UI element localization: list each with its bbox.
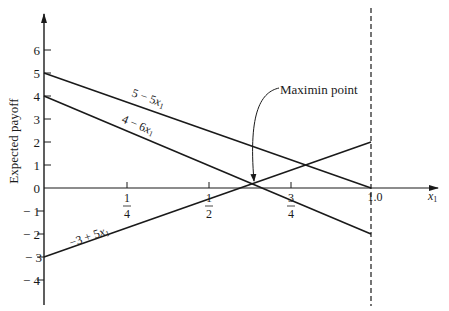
svg-text:3: 3 bbox=[34, 112, 41, 127]
y-axis-label: Expected payoff bbox=[6, 98, 21, 184]
svg-text:1.0: 1.0 bbox=[368, 190, 383, 204]
label-minus3-plus-5x1: −3 + 5x1 bbox=[67, 223, 111, 251]
y-tick-labels: 6 5 4 3 2 1 0 − 1 − 2 − 3 − 4 bbox=[23, 43, 42, 288]
svg-text:2: 2 bbox=[34, 135, 41, 150]
svg-text:5: 5 bbox=[34, 66, 41, 81]
svg-text:1: 1 bbox=[124, 191, 130, 205]
svg-text:4: 4 bbox=[288, 207, 294, 221]
svg-text:1: 1 bbox=[34, 158, 41, 173]
svg-text:− 4: − 4 bbox=[23, 273, 41, 288]
svg-text:6: 6 bbox=[34, 43, 41, 58]
svg-text:4: 4 bbox=[34, 89, 41, 104]
svg-text:0: 0 bbox=[34, 181, 41, 196]
x-axis-label: x1 bbox=[427, 189, 437, 204]
label-5-minus-5x1: 5 − 5x1 bbox=[130, 86, 167, 111]
svg-text:3: 3 bbox=[288, 191, 294, 205]
svg-text:− 2: − 2 bbox=[23, 227, 40, 242]
svg-text:2: 2 bbox=[206, 207, 212, 221]
payoff-chart: 6 5 4 3 2 1 0 − 1 − 2 − 3 − 4 1 4 1 2 3 … bbox=[0, 0, 449, 311]
svg-text:4: 4 bbox=[124, 207, 130, 221]
svg-text:− 3: − 3 bbox=[25, 250, 42, 265]
maximin-arrow bbox=[253, 88, 279, 181]
maximin-label: Maximin point bbox=[280, 82, 358, 97]
x-ticks bbox=[127, 182, 291, 188]
svg-text:− 1: − 1 bbox=[23, 204, 40, 219]
